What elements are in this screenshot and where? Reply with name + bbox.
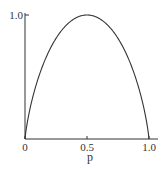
entropy-curve bbox=[25, 15, 149, 139]
y-ticks: 1.0 bbox=[9, 9, 29, 21]
x-tick-label: 1.0 bbox=[142, 141, 156, 153]
x-axis-label: p bbox=[87, 150, 93, 164]
y-tick-label: 1.0 bbox=[9, 9, 23, 21]
chart: 1.0 00.51.0 p bbox=[0, 0, 167, 169]
x-tick-label: 0 bbox=[22, 141, 28, 153]
